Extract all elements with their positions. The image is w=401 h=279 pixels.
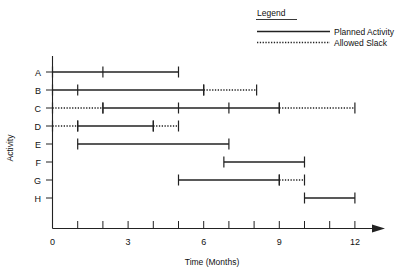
y-axis-ticks bbox=[46, 72, 53, 198]
gantt-row-h bbox=[305, 193, 355, 204]
x-axis-title: Time (Months) bbox=[185, 257, 240, 267]
y-tick-label-c: C bbox=[35, 104, 42, 114]
gantt-chart-canvas: Legend Planned Activity Allowed Slack bbox=[0, 0, 401, 279]
gantt-row-a bbox=[53, 67, 179, 78]
gantt-bars-layer bbox=[53, 67, 355, 204]
legend: Legend Planned Activity Allowed Slack bbox=[256, 8, 395, 48]
legend-title: Legend bbox=[257, 8, 286, 18]
x-axis-arrow-icon bbox=[372, 225, 385, 233]
y-tick-label-e: E bbox=[35, 140, 41, 150]
legend-label-allowed-slack: Allowed Slack bbox=[334, 38, 388, 48]
x-axis-tick-labels: 0 3 6 9 12 bbox=[50, 237, 360, 247]
gantt-row-c bbox=[53, 103, 355, 114]
y-tick-label-f: F bbox=[36, 158, 42, 168]
x-tick-label-3: 3 bbox=[126, 237, 131, 247]
legend-entry-allowed-slack: Allowed Slack bbox=[257, 38, 388, 48]
gantt-row-f bbox=[224, 157, 305, 168]
gantt-row-g bbox=[179, 175, 305, 186]
y-tick-label-g: G bbox=[34, 176, 41, 186]
gantt-row-d bbox=[53, 121, 179, 132]
gantt-row-b bbox=[53, 85, 257, 96]
legend-label-planned-activity: Planned Activity bbox=[334, 27, 395, 37]
y-tick-label-h: H bbox=[35, 194, 42, 204]
y-tick-label-d: D bbox=[35, 122, 42, 132]
y-tick-label-b: B bbox=[35, 86, 41, 96]
y-axis-title: Activity bbox=[5, 134, 15, 162]
x-tick-label-9: 9 bbox=[277, 237, 282, 247]
x-tick-label-0: 0 bbox=[50, 237, 55, 247]
y-tick-label-a: A bbox=[35, 68, 41, 78]
gantt-chart: Legend Planned Activity Allowed Slack bbox=[0, 0, 401, 279]
gantt-row-e bbox=[78, 139, 229, 150]
y-axis-tick-labels: A B C D E F G H bbox=[34, 68, 42, 204]
legend-entry-planned-activity: Planned Activity bbox=[257, 27, 395, 37]
x-tick-label-6: 6 bbox=[201, 237, 206, 247]
x-tick-label-12: 12 bbox=[350, 237, 360, 247]
x-axis-ticks bbox=[53, 221, 355, 229]
